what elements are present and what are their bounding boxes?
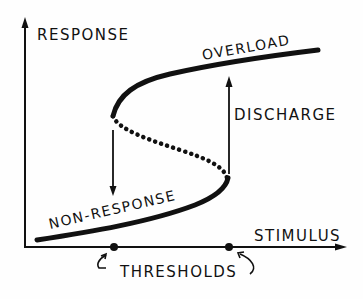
arrow-up-icon bbox=[226, 76, 233, 87]
diagram-canvas: RESPONSE STIMULUS OVERLOAD DISCHARGE NON… bbox=[0, 0, 363, 299]
y-axis-label: RESPONSE bbox=[37, 26, 130, 44]
x-axis-label: STIMULUS bbox=[254, 227, 341, 245]
arrow-down-icon bbox=[110, 186, 117, 196]
thresholds-label: THRESHOLDS bbox=[119, 263, 237, 281]
y-axis bbox=[22, 17, 29, 248]
threshold-pointer-right bbox=[240, 254, 254, 274]
hysteresis-diagram: RESPONSE STIMULUS OVERLOAD DISCHARGE NON… bbox=[0, 0, 363, 299]
y-axis-arrowhead-icon bbox=[22, 17, 29, 28]
unstable-branch bbox=[113, 116, 227, 178]
discharge-label: DISCHARGE bbox=[234, 106, 337, 124]
discharge-arrow bbox=[226, 76, 233, 174]
threshold-dot-low bbox=[110, 243, 118, 251]
drop-arrow bbox=[110, 130, 117, 196]
threshold-dot-high bbox=[225, 243, 233, 251]
